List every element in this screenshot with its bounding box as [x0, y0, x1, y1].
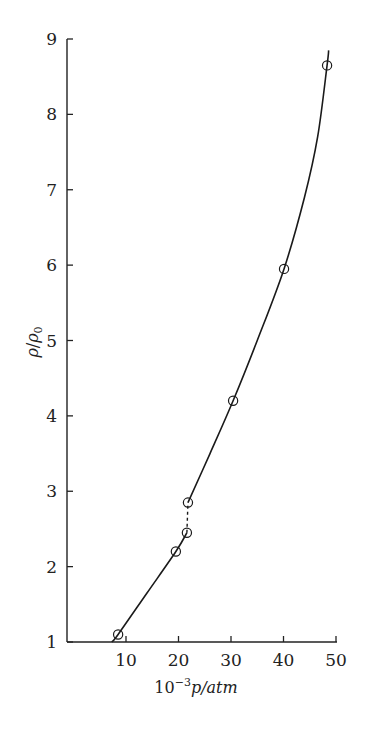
- axes: [67, 39, 337, 642]
- y-axis-title: ρ/ρ0: [23, 326, 45, 358]
- y-tick-label: 9: [46, 29, 57, 49]
- curve-fit-high: [188, 50, 329, 502]
- x-tick-label: 20: [168, 650, 190, 670]
- y-tick-label: 6: [46, 255, 57, 275]
- curve-fit-low: [112, 533, 187, 642]
- x-ticks: 1020304050: [115, 636, 347, 670]
- y-tick-label: 2: [46, 557, 57, 577]
- data-points: [114, 61, 332, 639]
- x-axis-title: 10−3p/atm: [154, 676, 237, 697]
- x-tick-label: 10: [115, 650, 137, 670]
- y-tick-label: 8: [46, 104, 57, 124]
- y-tick-label: 7: [46, 180, 57, 200]
- y-tick-label: 5: [46, 331, 57, 351]
- chart: 123456789 1020304050 10−3p/atm ρ/ρ0: [0, 0, 367, 729]
- y-tick-label: 4: [46, 406, 57, 426]
- y-tick-label: 3: [46, 481, 57, 501]
- fit-curves: [112, 50, 329, 642]
- x-tick-label: 30: [220, 650, 242, 670]
- x-tick-label: 40: [273, 650, 295, 670]
- x-tick-label: 50: [325, 650, 347, 670]
- y-tick-label: 1: [46, 632, 57, 652]
- y-ticks: 123456789: [46, 29, 73, 652]
